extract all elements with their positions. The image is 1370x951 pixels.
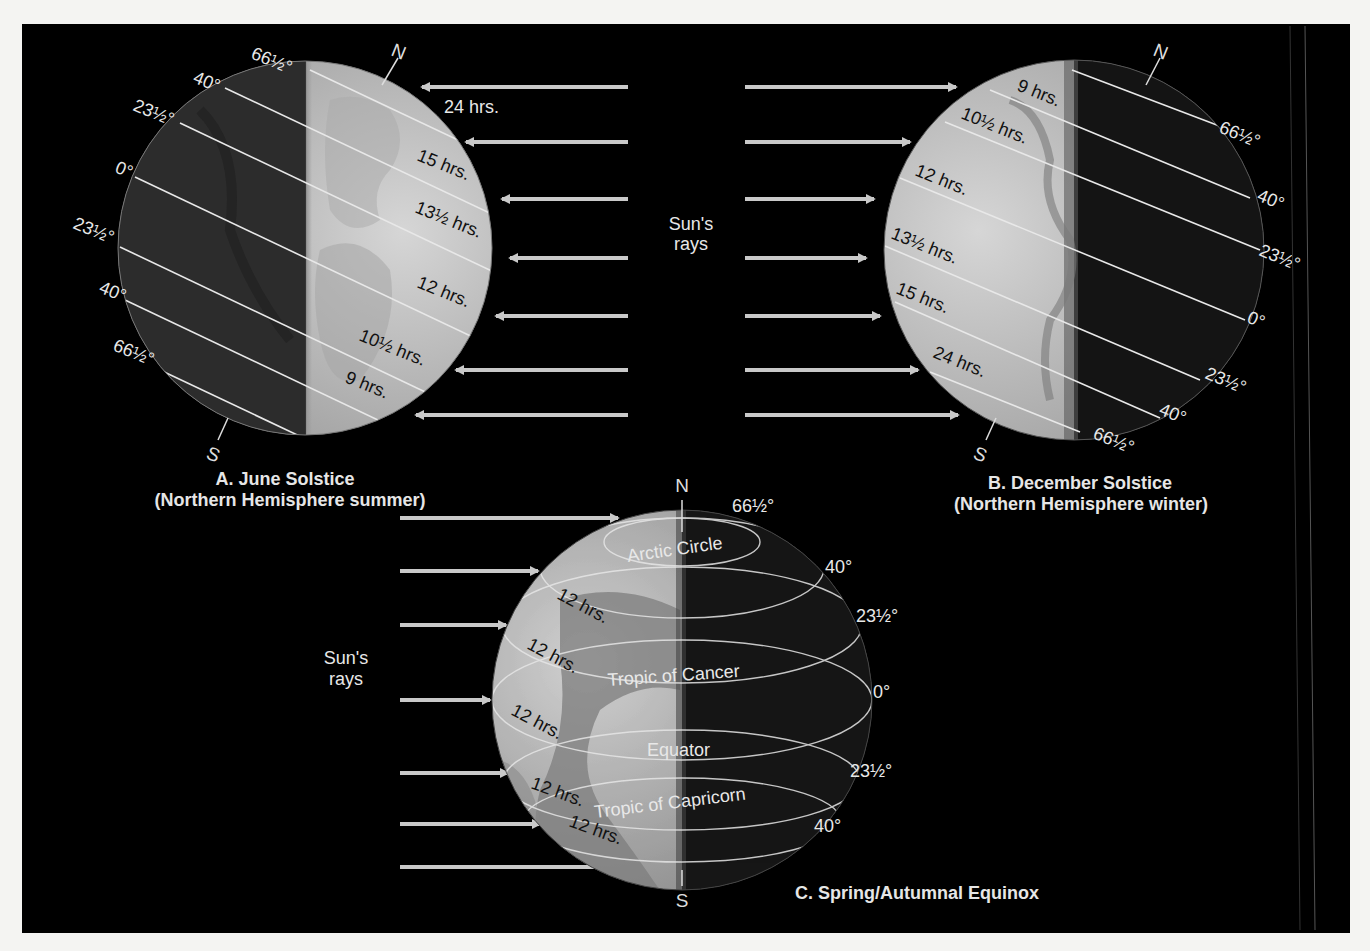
scan-artifact-line <box>1290 26 1300 930</box>
svg-text:23½°: 23½° <box>71 213 118 247</box>
svg-text:Sun's: Sun's <box>324 648 368 668</box>
north-label-b: N <box>1151 39 1172 64</box>
svg-text:40°: 40° <box>814 816 841 836</box>
sun-rays-label-bottom: Sun's rays <box>324 648 368 689</box>
panel-b-december-solstice: N S 66½° 40° 23½° 0° 23½° 40° 66½° 9 hrs… <box>745 39 1303 514</box>
sun-rays-label-top: Sun's rays <box>669 214 713 254</box>
north-label-c: N <box>675 475 689 496</box>
svg-text:40°: 40° <box>825 557 852 577</box>
svg-text:0°: 0° <box>873 682 890 702</box>
svg-text:23½°: 23½° <box>1203 363 1250 397</box>
globe-a <box>118 60 500 441</box>
svg-text:Sun's: Sun's <box>669 214 713 234</box>
svg-text:66½°: 66½° <box>732 496 774 516</box>
caption-b-title: B. December Solstice <box>988 473 1172 493</box>
axis-south-a <box>218 418 228 440</box>
south-label-c: S <box>676 890 689 911</box>
svg-text:23½°: 23½° <box>850 761 892 781</box>
south-label-a: S <box>204 442 224 466</box>
caption-b-subtitle: (Northern Hemisphere winter) <box>954 494 1208 514</box>
svg-text:rays: rays <box>329 669 363 689</box>
svg-text:Equator: Equator <box>647 740 710 760</box>
svg-text:23½°: 23½° <box>856 606 898 626</box>
caption-c: C. Spring/Autumnal Equinox <box>795 883 1039 903</box>
svg-text:23½°: 23½° <box>131 95 178 129</box>
scan-artifact-line <box>1305 26 1315 930</box>
north-label-a: N <box>389 39 410 64</box>
svg-text:24 hrs.: 24 hrs. <box>444 97 499 117</box>
panel-a-june-solstice: N S 66½° 40° 23½° 0° 23½° 40° 66½° 24 hr… <box>71 39 628 510</box>
diagram-panel: N S 66½° 40° 23½° 0° 23½° 40° 66½° 24 hr… <box>22 24 1350 933</box>
south-label-b: S <box>971 442 991 466</box>
solstice-equinox-diagram: N S 66½° 40° 23½° 0° 23½° 40° 66½° 24 hr… <box>22 24 1350 933</box>
panel-c-equinox: Sun's rays N S 66½° 40° <box>324 475 1039 933</box>
caption-a-title: A. June Solstice <box>215 469 354 489</box>
svg-text:rays: rays <box>674 234 708 254</box>
caption-a-subtitle: (Northern Hemisphere summer) <box>154 490 425 510</box>
